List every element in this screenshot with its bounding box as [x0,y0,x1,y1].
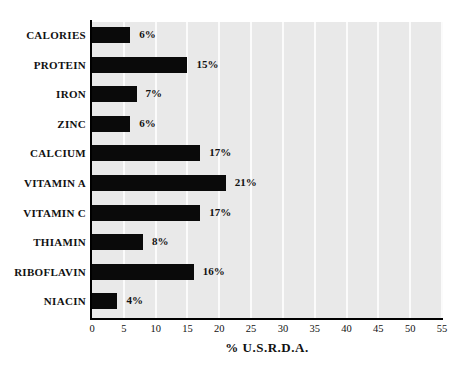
bar [92,86,137,102]
bar-row: 17% [92,200,442,230]
x-axis-title: % U.S.R.D.A. [92,340,442,356]
bar-value-label: 8% [152,233,169,249]
bar-value-label: 4% [126,292,143,308]
y-axis-line [90,20,92,320]
bar-value-label: 6% [139,115,156,131]
category-label: RIBOFLAVIN [0,264,86,280]
bar [92,293,117,309]
category-label: IRON [0,86,86,102]
bar [92,205,200,221]
x-axis-line [90,318,443,320]
bar-row: 6% [92,22,442,52]
bar [92,175,226,191]
bar-row: 15% [92,52,442,82]
bar [92,264,194,280]
bar [92,234,143,250]
bar-row: 21% [92,170,442,200]
category-label: THIAMIN [0,234,86,250]
bar [92,145,200,161]
bar-value-label: 7% [146,85,163,101]
bar-value-label: 17% [209,144,231,160]
bar-value-label: 6% [139,26,156,42]
bar-row: 16% [92,259,442,289]
bar-value-label: 17% [209,204,231,220]
bar-rows: 6%15%7%6%17%21%17%8%16%4% [92,22,442,318]
bar-row: 17% [92,140,442,170]
bar [92,116,130,132]
bar-chart: 6%15%7%6%17%21%17%8%16%4% CALORIESPROTEI… [0,0,470,369]
bar-value-label: 21% [235,174,257,190]
bar-row: 8% [92,229,442,259]
bar-value-label: 16% [203,263,225,279]
category-label: VITAMIN A [0,175,86,191]
bar-row: 4% [92,288,442,318]
category-label: CALORIES [0,27,86,43]
category-label: ZINC [0,116,86,132]
bar [92,27,130,43]
bar-row: 6% [92,111,442,141]
x-tick-label: 55 [422,323,462,334]
bar [92,57,187,73]
category-label: VITAMIN C [0,205,86,221]
bar-value-label: 15% [196,56,218,72]
category-label: CALCIUM [0,145,86,161]
plot-area: 6%15%7%6%17%21%17%8%16%4% [92,22,442,318]
bar-row: 7% [92,81,442,111]
category-label: NIACIN [0,293,86,309]
category-label: PROTEIN [0,57,86,73]
